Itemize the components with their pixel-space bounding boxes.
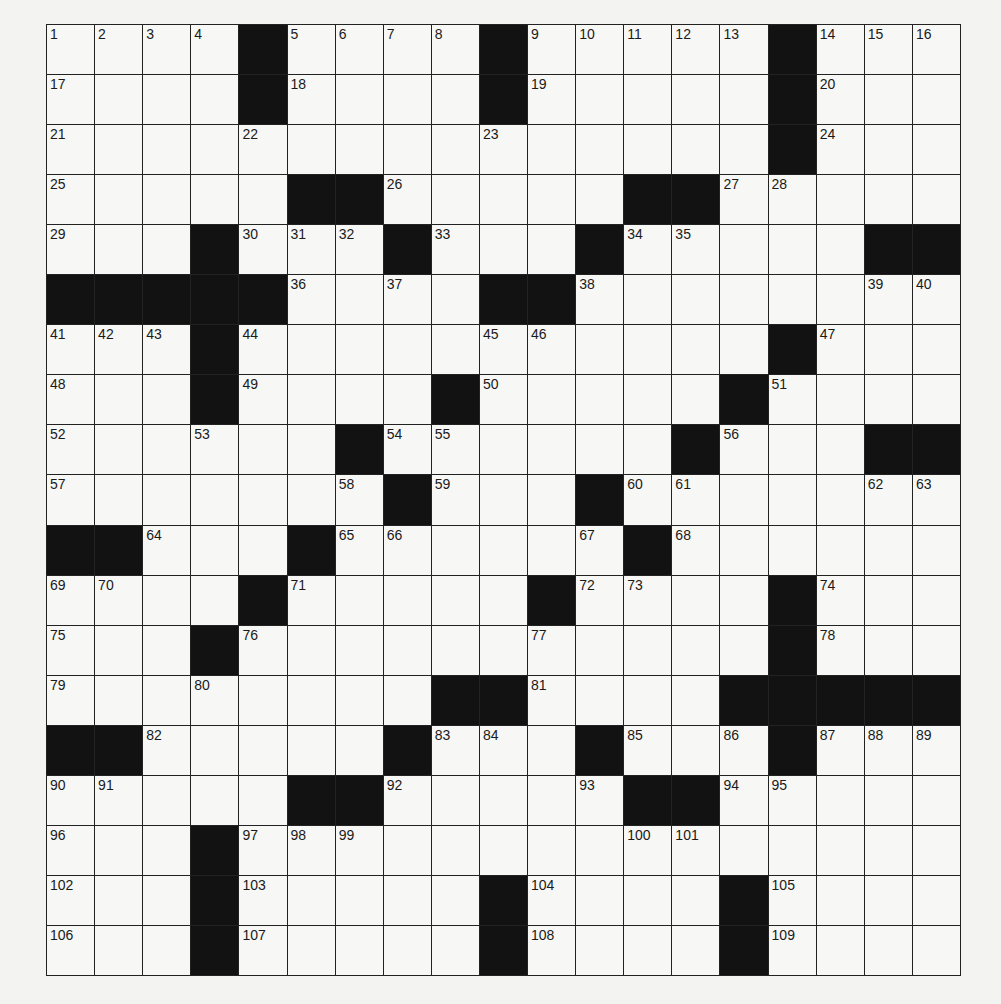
grid-cell[interactable]	[865, 826, 912, 875]
grid-cell[interactable]: 2	[95, 25, 142, 74]
grid-cell[interactable]: 53	[191, 425, 238, 474]
grid-cell[interactable]: 81	[528, 676, 575, 725]
grid-cell[interactable]	[769, 275, 816, 324]
grid-cell[interactable]	[336, 375, 383, 424]
grid-cell[interactable]: 51	[769, 375, 816, 424]
grid-cell[interactable]: 36	[288, 275, 335, 324]
grid-cell[interactable]	[672, 676, 719, 725]
grid-cell[interactable]	[913, 325, 960, 374]
grid-cell[interactable]: 55	[432, 425, 479, 474]
grid-cell[interactable]: 88	[865, 726, 912, 775]
grid-cell[interactable]: 83	[432, 726, 479, 775]
grid-cell[interactable]: 28	[769, 175, 816, 224]
grid-cell[interactable]: 73	[624, 576, 671, 625]
grid-cell[interactable]	[913, 175, 960, 224]
grid-cell[interactable]: 24	[817, 125, 864, 174]
grid-cell[interactable]	[528, 475, 575, 524]
grid-cell[interactable]	[672, 626, 719, 675]
grid-cell[interactable]: 35	[672, 225, 719, 274]
grid-cell[interactable]	[865, 125, 912, 174]
grid-cell[interactable]	[865, 75, 912, 124]
grid-cell[interactable]	[528, 125, 575, 174]
grid-cell[interactable]: 74	[817, 576, 864, 625]
grid-cell[interactable]: 100	[624, 826, 671, 875]
grid-cell[interactable]: 7	[384, 25, 431, 74]
grid-cell[interactable]	[720, 626, 767, 675]
grid-cell[interactable]	[191, 526, 238, 575]
grid-cell[interactable]	[913, 776, 960, 825]
grid-cell[interactable]: 67	[576, 526, 623, 575]
grid-cell[interactable]	[528, 826, 575, 875]
grid-cell[interactable]: 75	[47, 626, 94, 675]
grid-cell[interactable]	[672, 375, 719, 424]
grid-cell[interactable]	[480, 626, 527, 675]
grid-cell[interactable]: 94	[720, 776, 767, 825]
grid-cell[interactable]	[143, 375, 190, 424]
grid-cell[interactable]	[865, 526, 912, 575]
grid-cell[interactable]	[432, 626, 479, 675]
grid-cell[interactable]	[913, 526, 960, 575]
grid-cell[interactable]	[528, 225, 575, 274]
grid-cell[interactable]: 21	[47, 125, 94, 174]
grid-cell[interactable]: 82	[143, 726, 190, 775]
grid-cell[interactable]	[672, 576, 719, 625]
grid-cell[interactable]	[432, 826, 479, 875]
grid-cell[interactable]	[191, 726, 238, 775]
grid-cell[interactable]: 61	[672, 475, 719, 524]
grid-cell[interactable]: 33	[432, 225, 479, 274]
grid-cell[interactable]	[336, 275, 383, 324]
grid-cell[interactable]	[624, 325, 671, 374]
grid-cell[interactable]	[336, 325, 383, 374]
grid-cell[interactable]	[913, 125, 960, 174]
grid-cell[interactable]	[720, 75, 767, 124]
grid-cell[interactable]	[191, 475, 238, 524]
grid-cell[interactable]: 66	[384, 526, 431, 575]
grid-cell[interactable]	[239, 475, 286, 524]
grid-cell[interactable]	[288, 475, 335, 524]
grid-cell[interactable]	[288, 726, 335, 775]
grid-cell[interactable]	[624, 275, 671, 324]
grid-cell[interactable]: 78	[817, 626, 864, 675]
grid-cell[interactable]: 80	[191, 676, 238, 725]
grid-cell[interactable]	[720, 225, 767, 274]
grid-cell[interactable]	[528, 776, 575, 825]
grid-cell[interactable]	[624, 425, 671, 474]
grid-cell[interactable]	[817, 526, 864, 575]
grid-cell[interactable]: 69	[47, 576, 94, 625]
grid-cell[interactable]: 72	[576, 576, 623, 625]
grid-cell[interactable]: 45	[480, 325, 527, 374]
grid-cell[interactable]	[624, 676, 671, 725]
grid-cell[interactable]	[817, 425, 864, 474]
grid-cell[interactable]	[143, 175, 190, 224]
grid-cell[interactable]	[384, 75, 431, 124]
grid-cell[interactable]	[480, 526, 527, 575]
grid-cell[interactable]: 44	[239, 325, 286, 374]
grid-cell[interactable]	[432, 526, 479, 575]
grid-cell[interactable]: 18	[288, 75, 335, 124]
grid-cell[interactable]	[865, 876, 912, 925]
grid-cell[interactable]	[480, 175, 527, 224]
grid-cell[interactable]	[576, 125, 623, 174]
grid-cell[interactable]	[672, 876, 719, 925]
grid-cell[interactable]	[336, 876, 383, 925]
grid-cell[interactable]: 34	[624, 225, 671, 274]
grid-cell[interactable]: 20	[817, 75, 864, 124]
grid-cell[interactable]	[95, 375, 142, 424]
grid-cell[interactable]: 91	[95, 776, 142, 825]
grid-cell[interactable]: 95	[769, 776, 816, 825]
grid-cell[interactable]	[336, 75, 383, 124]
grid-cell[interactable]: 32	[336, 225, 383, 274]
grid-cell[interactable]	[817, 826, 864, 875]
grid-cell[interactable]	[480, 776, 527, 825]
grid-cell[interactable]	[769, 225, 816, 274]
grid-cell[interactable]	[624, 626, 671, 675]
grid-cell[interactable]: 48	[47, 375, 94, 424]
grid-cell[interactable]	[769, 526, 816, 575]
grid-cell[interactable]	[865, 325, 912, 374]
grid-cell[interactable]	[865, 375, 912, 424]
grid-cell[interactable]	[817, 475, 864, 524]
grid-cell[interactable]: 101	[672, 826, 719, 875]
grid-cell[interactable]	[239, 676, 286, 725]
grid-cell[interactable]	[143, 776, 190, 825]
grid-cell[interactable]	[624, 375, 671, 424]
